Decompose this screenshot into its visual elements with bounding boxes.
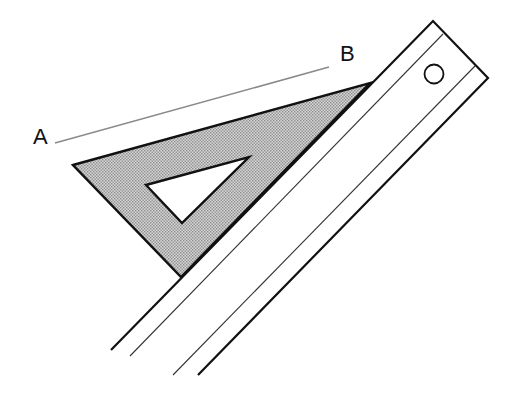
set-square — [73, 83, 370, 277]
ruler — [111, 21, 488, 375]
diagram-canvas: A B — [0, 0, 519, 393]
ruler-hanging-hole — [425, 65, 444, 84]
label-point-b: B — [340, 41, 355, 66]
label-point-a: A — [33, 124, 48, 149]
ruler-inner-line-left — [130, 34, 443, 356]
